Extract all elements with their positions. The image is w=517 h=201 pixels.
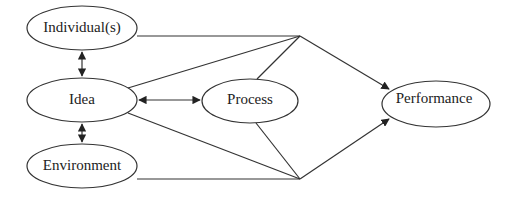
node-idea: Idea <box>27 78 137 122</box>
node-performance: Performance <box>382 81 490 127</box>
edge-bottom-junction-to-performance <box>300 119 389 179</box>
node-environment-label: Environment <box>43 157 122 173</box>
node-individuals: Individual(s) <box>27 6 137 50</box>
node-environment: Environment <box>27 144 137 188</box>
node-individuals-label: Individual(s) <box>43 19 120 36</box>
node-process: Process <box>202 79 298 123</box>
node-idea-label: Idea <box>69 91 95 107</box>
diagram-canvas: Individual(s) Idea Process Environment P… <box>0 0 517 201</box>
node-performance-label: Performance <box>396 90 473 106</box>
node-process-label: Process <box>227 91 273 107</box>
diagram-svg: Individual(s) Idea Process Environment P… <box>0 0 517 201</box>
edge-top-junction-to-performance <box>300 36 389 89</box>
